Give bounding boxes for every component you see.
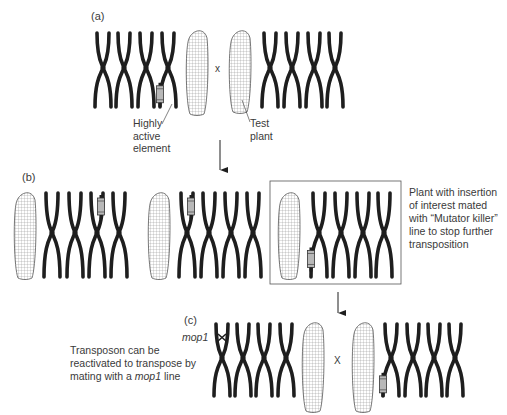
chromosome <box>278 324 294 396</box>
chromosome <box>447 324 463 396</box>
chromosome <box>327 33 343 107</box>
centromere <box>431 355 436 360</box>
test-line-2: plant <box>250 130 273 143</box>
centromere <box>316 230 321 235</box>
centromere <box>250 230 255 235</box>
note-b-line-2: of interest mated <box>409 199 498 212</box>
chromosome <box>405 324 421 396</box>
chromosome <box>333 193 349 277</box>
highly-active-element-label: Highly active element <box>133 117 170 155</box>
chromosome <box>95 33 111 107</box>
chromosome <box>111 193 127 277</box>
chromosome <box>235 324 251 396</box>
element-line-3: element <box>133 142 170 155</box>
test-plant-label: Test plant <box>250 117 273 142</box>
chromosome <box>284 33 300 107</box>
element-line-1: Highly <box>133 117 170 130</box>
mop1-mutation-mark <box>218 334 226 341</box>
centromere <box>452 355 457 360</box>
centromere <box>165 65 170 70</box>
centromere <box>338 230 343 235</box>
chromosome <box>157 33 177 107</box>
panel-a-label: (a) <box>91 10 104 23</box>
centromere <box>206 230 211 235</box>
chromosome <box>67 193 83 277</box>
centromere <box>100 65 105 70</box>
centromere <box>219 355 224 360</box>
note-c-line-3: mating with a mop1 line <box>70 370 196 383</box>
centromere <box>332 65 337 70</box>
centromere <box>121 65 126 70</box>
centromere <box>261 355 266 360</box>
chromosome <box>306 33 322 107</box>
centromere <box>240 355 245 360</box>
chromosome <box>179 193 195 277</box>
corn-cob-icon <box>148 193 170 280</box>
centromere <box>184 230 189 235</box>
note-b-line-5: transposition <box>409 238 498 251</box>
corn-cob-icon <box>302 323 324 413</box>
mop1-label: mop1 <box>182 331 208 344</box>
chromosome <box>355 193 371 277</box>
chromosome <box>201 193 217 277</box>
centromere <box>143 65 148 70</box>
mutator-killer-note: Plant with insertion of interest mated w… <box>409 186 498 251</box>
chromosome <box>262 33 278 107</box>
corn-cob-icon <box>186 31 208 116</box>
transposable-element-icon <box>380 373 387 397</box>
chromosome <box>116 33 132 107</box>
panel-b-label: (b) <box>22 171 35 184</box>
note-c-line-3-prefix: mating with a <box>70 370 135 382</box>
transposable-element-icon <box>308 247 315 271</box>
chromosome <box>223 193 239 277</box>
corn-cob-icon <box>229 31 251 114</box>
element-line-2: active <box>133 130 170 143</box>
chromosome <box>376 193 392 277</box>
chromosome <box>256 324 272 396</box>
note-b-line-3: with “Mutator killer” <box>409 212 498 225</box>
note-b-line-4: line to stop further <box>409 225 498 238</box>
chromosome <box>245 193 261 277</box>
reactivation-note: Transposon can be reactivated to transpo… <box>70 344 196 383</box>
centromere <box>360 230 365 235</box>
note-c-line-3-italic: mop1 <box>135 370 161 382</box>
note-c-line-3-suffix: line <box>161 370 180 382</box>
centromere <box>228 230 233 235</box>
chromosome <box>380 324 400 397</box>
centromere <box>94 230 99 235</box>
transposable-element-icon <box>188 195 195 219</box>
centromere <box>381 230 386 235</box>
corn-cob-icon <box>14 193 36 280</box>
centromere <box>283 355 288 360</box>
centromere <box>311 65 316 70</box>
test-line-1: Test <box>250 117 273 130</box>
centromere <box>72 230 77 235</box>
centromere <box>410 355 415 360</box>
chromosome-group <box>44 33 463 397</box>
centromere <box>267 65 272 70</box>
corn-cob-icon <box>278 193 300 280</box>
centromere <box>388 355 393 360</box>
note-c-line-1: Transposon can be <box>70 344 196 357</box>
note-b-line-1: Plant with insertion <box>409 186 498 199</box>
chromosome <box>138 33 154 107</box>
panel-c-label: (c) <box>184 314 197 327</box>
centromere <box>289 65 294 70</box>
centromere <box>116 230 121 235</box>
chromosome <box>89 193 105 277</box>
transposable-element-icon <box>98 195 105 219</box>
corn-cob-icon <box>352 323 374 413</box>
cross-symbol-a: x <box>215 63 220 76</box>
transposable-element-icon <box>157 83 164 107</box>
centromere <box>49 230 54 235</box>
note-c-line-2: reactivated to transpose by <box>70 357 196 370</box>
chromosome <box>44 193 60 277</box>
chromosome <box>214 324 230 396</box>
cross-symbol-c: X <box>334 355 341 368</box>
chromosome <box>426 324 442 396</box>
chromosome <box>308 193 328 277</box>
